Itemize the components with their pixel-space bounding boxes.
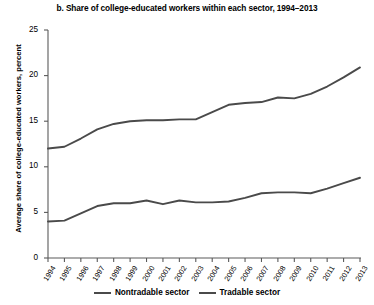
legend-line-swatch (199, 292, 216, 294)
y-tick-label: 20 (14, 70, 38, 79)
chart-container: b. Share of college-educated workers wit… (0, 0, 374, 305)
y-tick-label: 25 (14, 25, 38, 34)
y-tick-label: 5 (14, 207, 38, 216)
legend-label: Tradable sector (220, 288, 281, 297)
y-tick-label: 15 (14, 116, 38, 125)
legend-label: Nontradable sector (115, 288, 190, 297)
x-tick-marks (48, 258, 360, 262)
series-line-tradable-sector (48, 178, 360, 222)
legend-item-nontradable-sector[interactable]: Nontradable sector (94, 288, 190, 297)
chart-legend: Nontradable sectorTradable sector (0, 288, 374, 297)
y-tick-label: 0 (14, 253, 38, 262)
legend-item-tradable-sector[interactable]: Tradable sector (199, 288, 281, 297)
legend-line-swatch (94, 292, 111, 294)
data-series-group (48, 67, 360, 221)
series-line-nontradable-sector (48, 67, 360, 148)
plot-area (0, 0, 374, 305)
y-tick-marks (44, 30, 48, 258)
y-tick-label: 10 (14, 161, 38, 170)
axis-lines (48, 30, 361, 258)
